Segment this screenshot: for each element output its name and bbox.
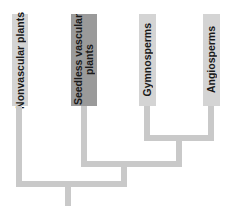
taxon-angiosperms: Angiosperms — [203, 14, 220, 106]
taxon-gymnosperms: Gymnosperms — [139, 14, 156, 106]
taxon-nonvascular-plants: Nonvascular plants — [12, 14, 28, 106]
branch-nonvascular-stem — [16, 106, 22, 187]
branch-vascular-plants-connector — [81, 161, 182, 167]
taxon-label: Seedless vascular plants — [73, 14, 95, 105]
branch-root — [65, 181, 71, 206]
taxon-seedless-vascular-plants: Seedless vascular plants — [71, 14, 97, 106]
branch-land-plants-connector — [16, 181, 127, 187]
taxon-label: Gymnosperms — [142, 23, 153, 97]
taxon-label: Angiosperms — [206, 26, 217, 93]
cladogram: Nonvascular plants Seedless vascular pla… — [0, 0, 232, 210]
branch-seedless-stem — [81, 106, 87, 167]
taxon-label: Nonvascular plants — [15, 12, 26, 109]
